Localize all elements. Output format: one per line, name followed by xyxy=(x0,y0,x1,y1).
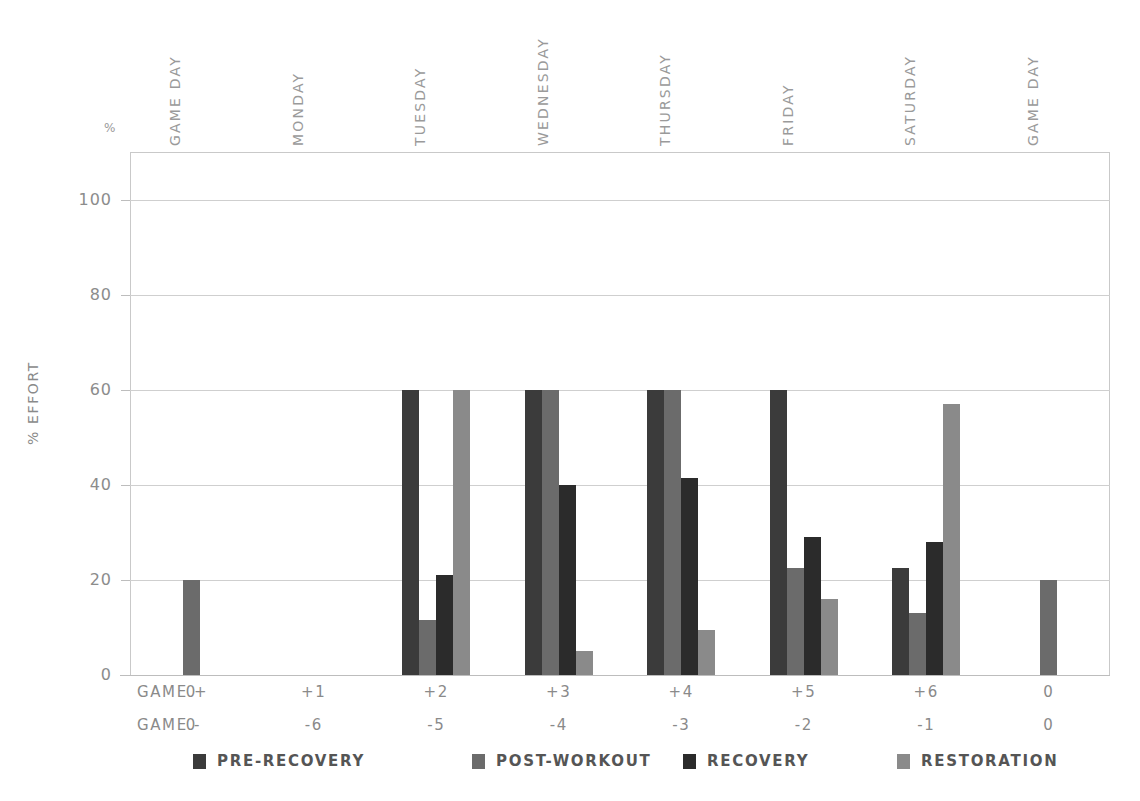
legend-label: PRE-RECOVERY xyxy=(217,752,365,770)
legend-label: POST-WORKOUT xyxy=(496,752,652,770)
bars-layer xyxy=(0,0,1140,675)
bar-pre-recovery-6 xyxy=(892,568,909,675)
bar-recovery-6 xyxy=(926,542,943,675)
legend: PRE-RECOVERYPOST-WORKOUTRECOVERYRESTORAT… xyxy=(0,752,1140,776)
bar-recovery-4 xyxy=(681,478,698,675)
bar-post-workout-5 xyxy=(787,568,804,675)
axis-cell-r0-c1: +1 xyxy=(274,683,354,701)
axis-cell-r1-c7: 0 xyxy=(1009,716,1089,734)
axis-cell-r1-c2: -5 xyxy=(396,716,476,734)
legend-swatch-icon xyxy=(683,754,696,769)
bar-restoration-3 xyxy=(576,651,593,675)
zero-baseline xyxy=(120,675,1110,676)
bar-restoration-5 xyxy=(821,599,838,675)
axis-cell-r0-c7: 0 xyxy=(1009,683,1089,701)
bar-restoration-4 xyxy=(698,630,715,675)
legend-label: RECOVERY xyxy=(707,752,809,770)
bar-chart: % % EFFORT GAME DAYMONDAYTUESDAYWEDNESDA… xyxy=(0,0,1140,801)
bar-pre-recovery-5 xyxy=(770,390,787,675)
legend-item-recovery[interactable]: RECOVERY xyxy=(683,752,809,770)
axis-cell-r1-c0: 0 xyxy=(151,716,231,734)
axis-cell-r1-c5: -2 xyxy=(764,716,844,734)
axis-cell-r0-c0: 0 xyxy=(151,683,231,701)
axis-row-game-minus: GAME -0-6-5-4-3-2-10 xyxy=(0,716,1140,742)
bar-post-workout-6 xyxy=(909,613,926,675)
bar-post-workout-3 xyxy=(542,390,559,675)
axis-cell-r0-c4: +4 xyxy=(641,683,721,701)
axis-cell-r1-c3: -4 xyxy=(519,716,599,734)
bar-restoration-6 xyxy=(943,404,960,675)
axis-cell-r0-c5: +5 xyxy=(764,683,844,701)
legend-swatch-icon xyxy=(897,754,910,769)
bar-pre-recovery-3 xyxy=(525,390,542,675)
axis-row-game-plus: GAME +0+1+2+3+4+5+60 xyxy=(0,683,1140,709)
bar-pre-recovery-4 xyxy=(647,390,664,675)
legend-swatch-icon xyxy=(472,754,485,769)
legend-item-restoration[interactable]: RESTORATION xyxy=(897,752,1058,770)
bar-post-workout-2 xyxy=(419,620,436,675)
axis-cell-r0-c3: +3 xyxy=(519,683,599,701)
axis-cell-r1-c4: -3 xyxy=(641,716,721,734)
axis-cell-r1-c1: -6 xyxy=(274,716,354,734)
legend-swatch-icon xyxy=(193,754,206,769)
bar-restoration-2 xyxy=(453,390,470,675)
axis-cell-r0-c6: +6 xyxy=(886,683,966,701)
legend-label: RESTORATION xyxy=(921,752,1058,770)
legend-item-pre-recovery[interactable]: PRE-RECOVERY xyxy=(193,752,365,770)
bar-post-workout-4 xyxy=(664,390,681,675)
bar-post-workout-7 xyxy=(1040,580,1057,675)
bar-recovery-2 xyxy=(436,575,453,675)
bar-post-workout-0 xyxy=(183,580,200,675)
bar-pre-recovery-2 xyxy=(402,390,419,675)
legend-item-post-workout[interactable]: POST-WORKOUT xyxy=(472,752,652,770)
bar-recovery-3 xyxy=(559,485,576,675)
axis-cell-r0-c2: +2 xyxy=(396,683,476,701)
bar-recovery-5 xyxy=(804,537,821,675)
axis-cell-r1-c6: -1 xyxy=(886,716,966,734)
